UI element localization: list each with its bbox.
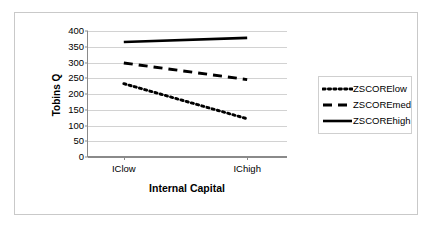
- y-tick-label: 250: [68, 74, 84, 84]
- x-tick-mark: [124, 156, 125, 160]
- legend-label: ZSCOREhigh: [353, 116, 411, 126]
- y-tick-label: 50: [73, 137, 84, 147]
- x-tick-label: IClow: [112, 163, 136, 174]
- x-tick-mark: [247, 156, 248, 160]
- series-line: [124, 84, 247, 119]
- y-tick-mark: [85, 157, 88, 158]
- chart-figure: Tobins Q 400350300250200150100500 IClowI…: [14, 12, 418, 215]
- legend-item[interactable]: ZSCORElow: [322, 81, 408, 97]
- legend-item[interactable]: ZSCOREhigh: [322, 113, 408, 129]
- legend-line-swatch: [322, 100, 353, 110]
- gridline: [88, 157, 287, 158]
- legend-label: ZSCORElow: [353, 84, 407, 94]
- plot-area: 400350300250200150100500 IClowIChigh: [87, 31, 287, 157]
- y-tick-label: 350: [68, 42, 84, 52]
- plot-wrapper: Tobins Q 400350300250200150100500 IClowI…: [62, 19, 287, 171]
- legend-label: ZSCOREmed: [353, 100, 411, 110]
- chart-legend: ZSCORElowZSCOREmedZSCOREhigh: [318, 76, 412, 134]
- x-tick-label: IChigh: [233, 163, 260, 174]
- series-layer: [88, 31, 287, 156]
- y-tick-label: 100: [68, 121, 84, 131]
- y-tick-label: 300: [68, 58, 84, 68]
- legend-line-swatch: [322, 116, 353, 126]
- y-tick-label: 0: [79, 152, 84, 162]
- legend-item[interactable]: ZSCOREmed: [322, 97, 408, 113]
- y-tick-label: 200: [68, 89, 84, 99]
- series-line: [124, 38, 247, 42]
- legend-line-swatch: [322, 84, 353, 94]
- y-tick-label: 400: [68, 26, 84, 36]
- x-axis-title: Internal Capital: [87, 182, 287, 194]
- y-axis-title: Tobins Q: [51, 74, 62, 117]
- series-line: [124, 63, 247, 80]
- y-tick-label: 150: [68, 105, 84, 115]
